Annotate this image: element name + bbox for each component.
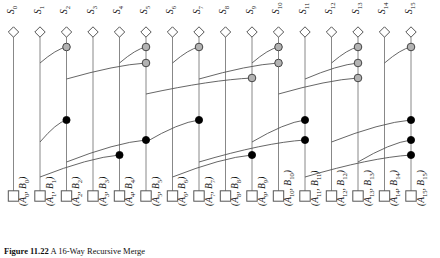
top-label-sub-2: 2: [64, 6, 71, 9]
gray-merge-node-l3-0: [248, 74, 256, 82]
bottom-label-1: (A1, B1): [45, 177, 57, 206]
bottom-label-open-1: (: [45, 203, 55, 206]
bottom-label-close-3: ): [98, 177, 108, 180]
top-diamond-10: [273, 27, 283, 37]
black-merge-node-l5-2: [407, 136, 414, 143]
bottom-label-bsub-6: 6: [182, 180, 189, 183]
bottom-label-open-0: (: [18, 203, 28, 206]
bottom-label-close-2: ): [71, 177, 81, 180]
bottom-label-asub-4: 4: [129, 194, 136, 197]
bottom-label-asub-14: 14: [394, 190, 401, 197]
bottom-label-asub-15: 15: [420, 190, 427, 197]
bottom-label-bsub-15: 15: [420, 173, 427, 180]
black-merge-node-l4-3: [407, 116, 414, 123]
top-label-15: S15: [404, 3, 416, 14]
bottom-label-a-3: A: [98, 197, 108, 203]
top-label-base-12: S: [324, 9, 334, 14]
top-label-14: S14: [377, 3, 389, 14]
top-label-3: S3: [86, 6, 98, 14]
bottom-label-comma-6: ,: [177, 189, 187, 194]
bottom-square-15: [406, 191, 416, 201]
black-merge-node-l6-1: [248, 151, 255, 158]
top-label-base-6: S: [165, 9, 175, 14]
top-label-5: S5: [139, 6, 151, 14]
bottom-label-comma-9: ,: [257, 189, 267, 194]
top-diamond-1: [35, 27, 45, 37]
bottom-label-b-15: B: [416, 180, 426, 186]
figure-container: S0S1S2S3S4S5S6S7S8S9S10S11S12S13S14S15 (…: [0, 0, 440, 258]
top-diamond-0: [8, 27, 18, 37]
bottom-label-close-8: ): [230, 177, 240, 180]
bottom-label-14: (A14, B14): [389, 170, 401, 206]
bottom-label-bsub-11: 11: [314, 174, 321, 180]
bottom-label-bsub-9: 9: [261, 180, 268, 183]
bottom-label-b-14: B: [389, 180, 399, 186]
bottom-label-asub-13: 13: [367, 190, 374, 197]
bottom-label-close-10: ): [283, 170, 293, 173]
top-label-13: S13: [351, 3, 363, 14]
bottom-label-a-2: A: [71, 197, 81, 203]
figure-caption: Figure 11.22 A 16-Way Recursive Merge: [4, 246, 434, 257]
bottom-label-a-15: A: [416, 197, 426, 203]
bottom-label-bsub-8: 8: [235, 180, 242, 183]
bottom-label-bsub-14: 14: [394, 173, 401, 180]
bottom-label-open-4: (: [124, 203, 134, 206]
black-merge-node-l4-2: [301, 116, 308, 123]
bottom-label-b-13: B: [363, 180, 373, 186]
bottom-label-close-9: ): [257, 177, 267, 180]
bottom-label-a-6: A: [177, 197, 187, 203]
bottom-label-a-11: A: [310, 197, 320, 203]
merge-edge-l4-0: [40, 120, 67, 142]
bottom-label-open-7: (: [204, 203, 214, 206]
top-label-1: S1: [33, 6, 45, 14]
top-label-base-5: S: [139, 9, 149, 14]
bottom-label-b-2: B: [71, 183, 81, 189]
top-label-sub-9: 9: [250, 6, 257, 9]
top-diamond-5: [141, 27, 151, 37]
bottom-square-9: [247, 191, 257, 201]
merge-edge-l1-2: [173, 47, 200, 63]
bottom-label-open-11: (: [310, 203, 320, 206]
bottom-label-close-1: ): [45, 177, 55, 180]
bottom-label-bsub-5: 5: [155, 180, 162, 183]
black-merge-node-l5-0: [142, 136, 149, 143]
bottom-label-asub-5: 5: [155, 194, 162, 197]
top-label-0: S0: [6, 6, 18, 14]
top-diamond-15: [406, 27, 416, 37]
top-diamond-6: [167, 27, 177, 37]
top-diamond-9: [247, 27, 257, 37]
black-merge-node-l6-2: [407, 151, 414, 158]
bottom-label-3: (A3, B3): [98, 177, 110, 206]
black-merge-node-l6-0: [116, 151, 123, 158]
bottom-label-comma-14: ,: [389, 186, 399, 191]
bottom-label-asub-2: 2: [76, 194, 83, 197]
bottom-label-a-12: A: [336, 197, 346, 203]
top-label-4: S4: [112, 6, 124, 14]
top-label-base-11: S: [298, 9, 308, 14]
top-diamond-12: [326, 27, 336, 37]
bottom-label-open-8: (: [230, 203, 240, 206]
bottom-label-a-9: A: [257, 197, 267, 203]
top-label-sub-5: 5: [144, 6, 151, 9]
black-merge-node-l4-0: [63, 116, 70, 123]
bottom-label-comma-4: ,: [124, 189, 134, 194]
bottom-label-a-5: A: [151, 197, 161, 203]
bottom-label-a-8: A: [230, 197, 240, 203]
top-marker-group: [8, 27, 416, 37]
bottom-label-open-5: (: [151, 203, 161, 206]
bottom-label-b-12: B: [336, 180, 346, 186]
caption-text: A 16-Way Recursive Merge: [50, 246, 145, 256]
bottom-label-asub-11: 11: [314, 191, 321, 197]
top-label-sub-7: 7: [197, 6, 204, 9]
top-label-base-4: S: [112, 9, 122, 14]
top-label-sub-8: 8: [223, 6, 230, 9]
bottom-label-0: (A0, B0): [18, 177, 30, 206]
black-merge-node-l4-1: [195, 116, 202, 123]
bottom-label-open-13: (: [363, 203, 373, 206]
top-diamond-11: [300, 27, 310, 37]
top-label-base-0: S: [6, 9, 16, 14]
bottom-label-5: (A5, B5): [151, 177, 163, 206]
gray-merge-node-l1-3: [275, 43, 283, 51]
top-label-base-9: S: [245, 9, 255, 14]
merge-edge-l3-1: [279, 78, 359, 94]
